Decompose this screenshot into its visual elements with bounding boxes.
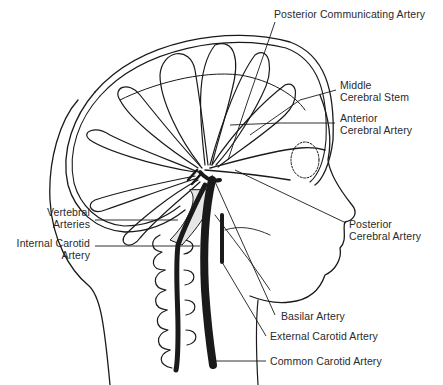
label-text: Cerebral Stem (340, 91, 409, 103)
label-text: Cerebral Artery (340, 124, 412, 136)
label-external-carotid-artery: External Carotid Artery (270, 330, 378, 342)
label-text: Middle (340, 79, 409, 91)
neck-front (257, 300, 259, 385)
label-text: Common Carotid Artery (270, 355, 382, 367)
common-carotid-artery (204, 180, 213, 365)
label-internal-carotid-artery: Internal Carotid Artery (2, 237, 90, 261)
label-text: Cerebral Artery (349, 230, 421, 242)
label-common-carotid-artery: Common Carotid Artery (270, 355, 382, 367)
label-text: External Carotid Artery (270, 330, 378, 342)
label-text: Arteries (30, 218, 90, 230)
label-vertebral-arteries: Vertebral Arteries (30, 206, 90, 230)
label-text: Internal Carotid (2, 237, 90, 249)
label-posterior-communicating-artery: Posterior Communicating Artery (274, 8, 425, 20)
label-text: Anterior (340, 112, 412, 124)
label-text: Artery (2, 249, 90, 261)
artery-diagram (0, 0, 443, 385)
label-posterior-cerebral-artery: Posterior Cerebral Artery (349, 218, 421, 242)
label-text: Posterior Communicating Artery (274, 8, 425, 20)
label-text: Posterior (349, 218, 421, 230)
label-text: Basilar Artery (281, 310, 345, 322)
label-text: Vertebral (30, 206, 90, 218)
label-middle-cerebral-stem: Middle Cerebral Stem (340, 79, 409, 103)
label-anterior-cerebral-artery: Anterior Cerebral Artery (340, 112, 412, 136)
leader-posterior-cerebral (235, 170, 346, 223)
label-basilar-artery: Basilar Artery (281, 310, 345, 322)
vertebrae (153, 235, 196, 368)
